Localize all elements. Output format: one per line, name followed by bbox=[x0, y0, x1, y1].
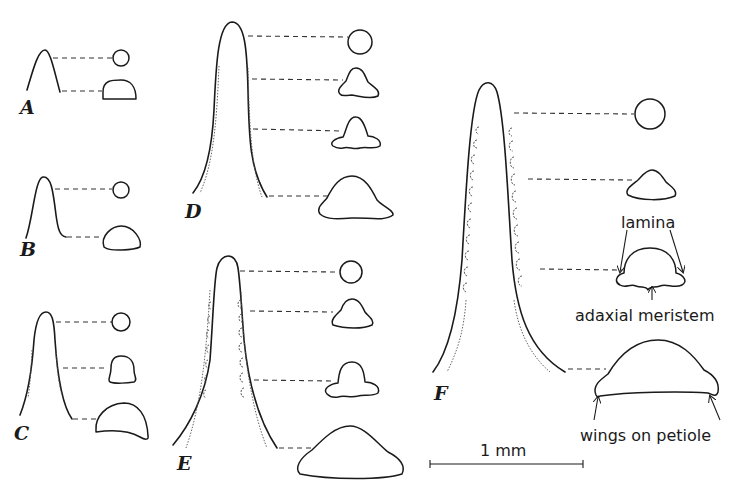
cross-section-petiole-stage bbox=[595, 340, 718, 397]
wing-arrow-left bbox=[594, 397, 598, 420]
leader-line bbox=[254, 380, 333, 381]
procambium-strand bbox=[186, 290, 210, 448]
cross-section-circle bbox=[635, 99, 665, 129]
primordium-outline bbox=[20, 312, 72, 419]
leader-line bbox=[514, 113, 634, 114]
leader-line bbox=[250, 311, 333, 312]
leader-line bbox=[253, 129, 342, 131]
procambium-strand bbox=[514, 300, 550, 372]
primordium-outline bbox=[173, 256, 277, 448]
wing-arrow-right bbox=[710, 396, 720, 420]
panel-label-b: B bbox=[19, 238, 36, 260]
procambium-strand bbox=[241, 292, 267, 448]
cross-section-circle bbox=[113, 50, 129, 66]
panel-c: C bbox=[14, 312, 148, 444]
cross-section-lamina-stage bbox=[617, 248, 685, 290]
panel-label-f: F bbox=[433, 382, 449, 404]
primordium-outline bbox=[433, 83, 565, 372]
primordium-outline bbox=[26, 177, 66, 238]
panel-e: E bbox=[173, 256, 403, 479]
panel-b: B bbox=[19, 177, 140, 260]
leaflet-primordia-right bbox=[238, 300, 244, 397]
panel-label-e: E bbox=[176, 452, 192, 474]
cross-section-triangular bbox=[332, 299, 373, 328]
cross-section-crescent bbox=[96, 403, 148, 439]
leader-line bbox=[540, 269, 622, 270]
annotation-wings-on-petiole: wings on petiole bbox=[580, 426, 711, 445]
annotation-lamina: lamina bbox=[621, 213, 675, 232]
cross-section-circle bbox=[113, 182, 129, 198]
cross-section-dome bbox=[103, 226, 140, 250]
panel-d: D bbox=[184, 22, 393, 222]
cross-section-circle bbox=[112, 313, 130, 331]
cross-section-triangular bbox=[339, 68, 379, 98]
cross-section-triangular bbox=[627, 170, 676, 200]
cross-section-large-triangle bbox=[298, 426, 404, 479]
leaflet-primordia-right bbox=[509, 128, 522, 286]
cross-section-lobed bbox=[325, 362, 378, 397]
leader-line bbox=[240, 271, 337, 272]
leader-line bbox=[248, 36, 348, 37]
leader-line bbox=[528, 179, 632, 180]
panel-label-d: D bbox=[184, 200, 202, 222]
scale-bar: 1 mm bbox=[430, 441, 583, 468]
panel-label-a: A bbox=[18, 96, 35, 118]
cross-section-lobed bbox=[332, 117, 381, 149]
panel-a: A bbox=[18, 50, 136, 118]
leaf-development-diagram: A B C D bbox=[0, 0, 740, 490]
cross-section-large-dome bbox=[319, 176, 393, 219]
panel-label-c: C bbox=[14, 422, 29, 444]
leader-line bbox=[252, 79, 343, 80]
cross-section-semicircle bbox=[103, 80, 136, 99]
panel-f: lamina adaxial meristem wings on petiole… bbox=[433, 83, 720, 445]
cross-section-bell bbox=[109, 356, 136, 383]
cross-section-circle bbox=[348, 30, 372, 54]
scale-bar-line bbox=[430, 460, 583, 468]
primordium-outline bbox=[27, 50, 60, 92]
primordium-outline bbox=[193, 22, 267, 197]
cross-section-circle bbox=[340, 261, 362, 283]
annotation-adaxial-meristem: adaxial meristem bbox=[575, 306, 715, 325]
scale-bar-label: 1 mm bbox=[480, 441, 526, 460]
